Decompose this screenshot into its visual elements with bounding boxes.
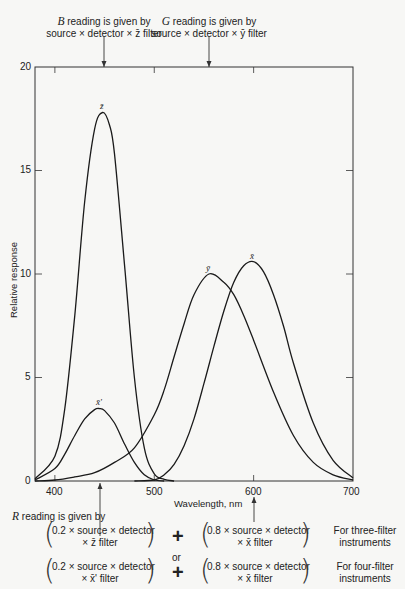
plus-sign: + <box>172 525 184 548</box>
formula-right-l2: × x̄ filter <box>207 573 303 585</box>
note-l2: instruments <box>330 573 400 585</box>
formula-left-l1: 0.2 × source × detector <box>52 561 148 573</box>
xtick-700: 700 <box>343 486 360 497</box>
ytick-5: 5 <box>25 371 31 382</box>
note-four-filter: For four-filter instruments <box>330 561 400 585</box>
curves <box>35 112 353 481</box>
formula-row-three-filter: ( 0.2 × source × detector × z̄ filter ) … <box>0 523 405 551</box>
plus-sign: + <box>172 561 184 584</box>
formula-right: 0.8 × source × detector × x̄ filter <box>207 525 303 549</box>
ytick-15: 15 <box>20 164 31 175</box>
paren-close: ) <box>145 557 156 585</box>
curve-label-z: z̄ <box>100 101 104 111</box>
xtick-400: 400 <box>46 486 63 497</box>
note-three-filter: For three-filter instruments <box>330 525 400 549</box>
curve-label-x-prime: x̄' <box>96 397 102 407</box>
formula-left-l1: 0.2 × source × detector <box>52 525 148 537</box>
ytick-10: 10 <box>20 268 31 279</box>
paren-close: ) <box>300 557 311 585</box>
formula-left: 0.2 × source × detector × z̄ filter <box>52 525 148 549</box>
r-rest: reading is given by <box>19 511 105 522</box>
x-axis-label: Wavelength, nm <box>174 498 242 509</box>
formula-row-four-filter: ( 0.2 × source × detector × x̄' filter )… <box>0 559 405 587</box>
formula-left: 0.2 × source × detector × x̄' filter <box>52 561 148 585</box>
paren-close: ) <box>300 521 311 549</box>
ytick-20: 20 <box>20 61 31 72</box>
formula-left-l2: × x̄' filter <box>52 573 148 585</box>
formula-right-l2: × x̄ filter <box>207 537 303 549</box>
formula-right: 0.8 × source × detector × x̄ filter <box>207 561 303 585</box>
formula-left-l2: × z̄ filter <box>52 537 148 549</box>
r-letter: R <box>12 510 19 522</box>
note-l1: For four-filter <box>330 561 400 573</box>
curve-label-x: x̄ <box>250 251 254 261</box>
xtick-600: 600 <box>245 486 262 497</box>
note-l2: instruments <box>330 537 400 549</box>
curve-label-y: ȳ <box>206 263 210 273</box>
xtick-500: 500 <box>146 486 163 497</box>
formula-right-l1: 0.8 × source × detector <box>207 561 303 573</box>
note-l1: For three-filter <box>330 525 400 537</box>
paren-close: ) <box>145 521 156 549</box>
ytick-0: 0 <box>25 475 31 486</box>
r-reading-note: R reading is given by <box>12 510 105 523</box>
formula-right-l1: 0.8 × source × detector <box>207 525 303 537</box>
y-axis-label: Relative response <box>8 242 19 318</box>
